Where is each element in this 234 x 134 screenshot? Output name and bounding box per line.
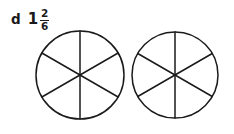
circle-1 [36, 31, 124, 119]
circles-svg-canvas [0, 0, 234, 134]
circle-2 [132, 32, 218, 118]
fraction-worksheet-item: d 1 2 6 [0, 0, 234, 134]
fraction-circles-diagram [0, 0, 234, 134]
